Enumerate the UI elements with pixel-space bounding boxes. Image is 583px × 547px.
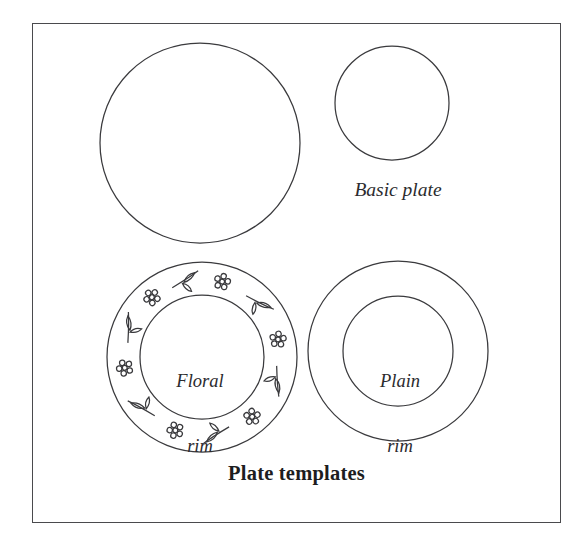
floral-rim-label-line2: rim [150,436,250,458]
floral-rim-label-line1: Floral [150,371,250,393]
plain-rim-label-line1: Plain [350,371,450,393]
basic-plate-label: Basic plate [318,178,478,201]
plain-rim-label-line2: rim [350,436,450,458]
figure-caption: Plate templates [32,462,561,485]
figure-border-frame [32,23,561,523]
figure-canvas: Basic plate Floral rim Plain rim Plate t… [0,0,583,547]
